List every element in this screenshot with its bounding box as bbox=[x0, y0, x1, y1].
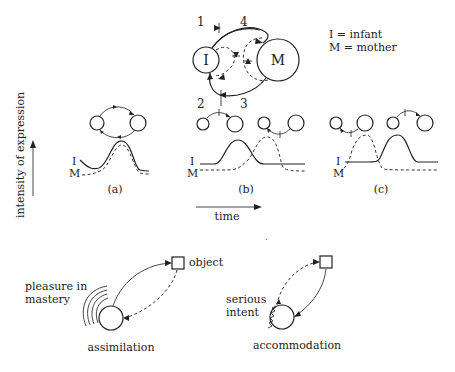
assimilation-annotation-line-2: mastery bbox=[25, 293, 71, 306]
panel-c-node-2 bbox=[357, 115, 373, 131]
arc-number-4: 4 bbox=[240, 15, 248, 29]
arrowhead-infant bbox=[207, 73, 213, 80]
legend-mother: M = mother bbox=[329, 41, 398, 54]
x-axis: time bbox=[196, 204, 262, 223]
panel-a: I M (a) bbox=[69, 105, 149, 196]
object-label: object bbox=[189, 256, 224, 269]
panel-c-infant-curve bbox=[345, 135, 438, 162]
y-axis-arrowhead bbox=[30, 140, 36, 148]
panel-a-infant-node bbox=[90, 116, 104, 130]
infant-node-label: I bbox=[203, 52, 209, 68]
arc-number-3: 3 bbox=[240, 97, 248, 111]
arc-number-1: 1 bbox=[197, 15, 205, 29]
assimilation-self-node bbox=[99, 306, 123, 330]
assimilation-annotation-line-1: pleasure in bbox=[25, 280, 87, 293]
panel-b-node-2 bbox=[227, 116, 243, 132]
assimilation-object-node bbox=[172, 257, 184, 269]
panel-c-mother-curve bbox=[340, 135, 438, 172]
y-axis: intensity of expression bbox=[14, 92, 36, 218]
diagram-canvas: I M 1 4 2 3 I = infant M = mother bbox=[0, 0, 455, 372]
accommodation-caption: accommodation bbox=[253, 339, 341, 352]
accommodation-solid-arc bbox=[295, 269, 326, 316]
mother-node-label: M bbox=[271, 52, 285, 68]
time-arrowhead bbox=[254, 204, 262, 210]
panel-b-infant-curve bbox=[200, 140, 305, 164]
assimilation-diagram: pleasure in mastery object assimilation bbox=[25, 256, 224, 354]
serious-intent-zigzag bbox=[268, 306, 276, 328]
panel-b-caption: (b) bbox=[238, 183, 254, 196]
main-interaction-diagram: I M 1 4 2 3 bbox=[193, 15, 299, 111]
accommodation-dashed-arc bbox=[277, 262, 318, 305]
panel-c-mother-label: M bbox=[333, 167, 344, 180]
infant-dashed-loop bbox=[214, 47, 234, 75]
panel-b-node-4 bbox=[288, 115, 304, 131]
arrowhead-2-3 bbox=[219, 92, 226, 98]
accommodation-object-node bbox=[320, 256, 332, 268]
x-axis-label: time bbox=[215, 210, 240, 223]
accommodation-annotation-line-2: intent bbox=[226, 306, 260, 319]
arc-number-2: 2 bbox=[197, 97, 205, 111]
panel-a-bottom-arc bbox=[100, 130, 134, 138]
panel-c: I M (c) bbox=[330, 109, 438, 196]
legend-infant: I = infant bbox=[329, 28, 383, 41]
panel-b: I M (b) bbox=[187, 109, 305, 196]
panel-a-infant-curve bbox=[80, 141, 149, 171]
assimilation-solid-arc bbox=[113, 263, 170, 306]
panel-a-top-arc bbox=[100, 107, 134, 116]
arrowhead-1 bbox=[214, 25, 221, 31]
panel-a-caption: (a) bbox=[107, 183, 122, 196]
accommodation-annotation-line-1: serious bbox=[226, 293, 267, 306]
panel-c-node-3 bbox=[387, 117, 399, 129]
assimilation-caption: assimilation bbox=[87, 341, 154, 354]
panel-c-node-1 bbox=[330, 117, 342, 129]
bottom-arc-mother-to-infant bbox=[209, 73, 266, 96]
accommodation-self-node bbox=[270, 305, 294, 329]
y-axis-label: intensity of expression bbox=[14, 92, 27, 218]
panel-b-node-3 bbox=[258, 117, 270, 129]
panel-c-node-4 bbox=[417, 115, 433, 131]
panel-b-arc-2 bbox=[267, 128, 290, 134]
stray-mark: . bbox=[265, 233, 268, 242]
panel-b-node-1 bbox=[197, 118, 209, 130]
panel-b-mother-label: M bbox=[187, 167, 198, 180]
accommodation-diagram: serious intent accommodation bbox=[226, 256, 341, 352]
panel-c-caption: (c) bbox=[374, 183, 389, 196]
panel-a-mother-curve bbox=[82, 145, 149, 175]
panel-a-mother-node bbox=[130, 115, 146, 131]
panel-a-mother-label: M bbox=[69, 167, 80, 180]
